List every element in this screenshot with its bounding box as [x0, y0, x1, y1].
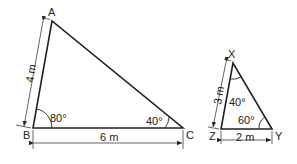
- ab-extension-bottom: [16, 125, 31, 128]
- vertex-label-a: A: [48, 6, 56, 18]
- vertex-label-x: X: [228, 48, 236, 60]
- vertex-label-y: Y: [275, 130, 283, 142]
- angle-x-label: 40°: [229, 96, 246, 108]
- vertex-label-c: C: [186, 129, 194, 141]
- diagram-canvas: A B C 80° 40° 4 m 6 m X Z Y 40° 60° 3 m …: [0, 0, 297, 164]
- triangle-abc: A B C 80° 40° 4 m 6 m: [16, 6, 194, 149]
- angle-c-label: 40°: [146, 115, 163, 127]
- angle-b-label: 80°: [50, 112, 67, 124]
- triangle-xyz: X Z Y 40° 60° 3 m 2 m: [208, 48, 283, 144]
- angle-y-label: 60°: [238, 114, 255, 126]
- angle-c-arc: [165, 117, 169, 128]
- side-bc-label: 6 m: [100, 131, 118, 143]
- side-ab-label: 4 m: [23, 63, 38, 83]
- vertex-label-b: B: [23, 129, 30, 141]
- angle-x-arc: [230, 77, 241, 79]
- ab-extension-top: [44, 18, 50, 20]
- side-zy-label: 2 m: [236, 131, 254, 143]
- side-xz-label: 3 m: [211, 85, 226, 105]
- vertex-label-z: Z: [209, 130, 216, 142]
- angle-y-arc: [259, 117, 265, 129]
- xz-extension-bottom: [208, 127, 219, 129]
